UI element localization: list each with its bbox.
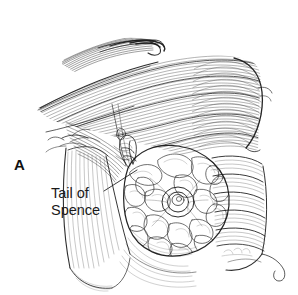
anatomy-illustration xyxy=(0,0,298,295)
lactiferous-ducts xyxy=(146,178,208,226)
inframammary-hatching xyxy=(120,238,196,287)
anatomical-figure: A Tail of Spence xyxy=(0,0,298,295)
panel-letter-a: A xyxy=(14,157,25,172)
pectoralis-major-fibers xyxy=(34,56,262,160)
tail-of-spence-label: Tail of Spence xyxy=(51,185,100,219)
artist-signature xyxy=(222,248,252,256)
nipple-areola-complex xyxy=(162,187,194,217)
breast-lobules xyxy=(124,154,229,264)
rib-band-hatching xyxy=(212,160,265,248)
ink-drawing xyxy=(34,36,285,291)
callout-leader-line xyxy=(104,170,137,191)
tail-of-spence-label-line2: Spence xyxy=(51,202,100,219)
tail-of-spence-label-line1: Tail of xyxy=(51,185,100,202)
